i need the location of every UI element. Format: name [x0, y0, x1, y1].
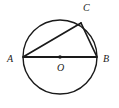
center-point-dot [58, 55, 62, 59]
vertex-label-b: B [103, 54, 109, 64]
chord-ac-line [23, 23, 81, 57]
vertex-label-c: C [83, 3, 90, 13]
geometry-figure: A B C O [0, 0, 119, 108]
geometry-canvas [0, 0, 119, 108]
center-label-o: O [57, 63, 64, 73]
vertex-label-a: A [7, 54, 13, 64]
chord-cb-line [81, 23, 97, 57]
